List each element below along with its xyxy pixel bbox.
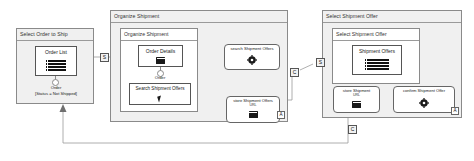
connector-marker-s-1[interactable]: S: [100, 53, 109, 62]
panel-title-organize-shipment: Organize Shipment: [111, 11, 287, 23]
panel-title-select-order-to-ship: Select Order to Ship: [17, 29, 93, 41]
order-list-icon: [36, 56, 76, 75]
store-shipment-offers-data-icon: [249, 107, 258, 122]
corner-marker-a-panel3: A: [451, 107, 459, 115]
entity-label-order: Order: [17, 85, 95, 90]
subpanel-organize-shipment: Organize Shipment Order Details Order Se…: [120, 28, 198, 112]
widget-shipment-offers[interactable]: Shipment Offers: [352, 45, 402, 75]
service-store-shipment-offers[interactable]: store Shipment Offers URL: [226, 96, 280, 123]
corner-marker-a-panel2: A: [277, 111, 285, 119]
widget-shipment-offers-label: Shipment Offers: [359, 46, 395, 55]
store-shipment-url-data-icon: [352, 97, 361, 112]
entity-label-order-2: Order: [121, 75, 199, 80]
widget-order-details-label: Order Details: [146, 46, 175, 55]
widget-order-list-label: Order List: [45, 47, 67, 56]
order-details-data-icon: [139, 55, 182, 66]
connector-marker-c-2[interactable]: C: [348, 125, 357, 134]
panel-select-shipment-offer: Select Shipment Offer Select Shipment Of…: [322, 10, 462, 118]
gear-icon-svg: [247, 55, 257, 65]
widget-search-shipment-offers-label: Search Shipment Offers: [136, 84, 185, 93]
panel-title-select-shipment-offer: Select Shipment Offer: [323, 11, 461, 23]
widget-order-details[interactable]: Order Details: [138, 45, 183, 67]
service-confirm-shipment-offer[interactable]: confirm Shipment Offer: [393, 86, 455, 113]
service-search-shipment-offers[interactable]: search Shipment Offers: [224, 44, 280, 70]
connector-marker-c-1[interactable]: C: [290, 68, 299, 77]
constraint-label-order-status: [Status = Not Shipped]: [17, 91, 95, 96]
cursor-icon: [130, 93, 190, 104]
widget-order-list[interactable]: Order List: [35, 46, 77, 76]
gear-icon: [247, 51, 257, 69]
panel-select-order-to-ship: Select Order to Ship Order List Order [S…: [16, 28, 94, 104]
confirm-gear-icon: [419, 93, 429, 112]
gear-icon-svg-2: [419, 98, 429, 108]
subpanel-title-select-shipment-offer: Select Shipment Offer: [333, 29, 419, 41]
shipment-offers-list-icon: [353, 55, 401, 74]
subpanel-select-shipment-offer: Select Shipment Offer Shipment Offers: [332, 28, 420, 84]
widget-search-shipment-offers[interactable]: Search Shipment Offers: [129, 83, 191, 105]
subpanel-title-organize-shipment: Organize Shipment: [121, 29, 197, 41]
panel-organize-shipment: Organize Shipment Organize Shipment Orde…: [110, 10, 288, 122]
connector-marker-s-2[interactable]: S: [316, 58, 325, 67]
diagram-canvas: Select Order to Ship Order List Order [S…: [0, 0, 474, 161]
service-store-shipment-url[interactable]: store Shipment URL: [333, 86, 380, 113]
